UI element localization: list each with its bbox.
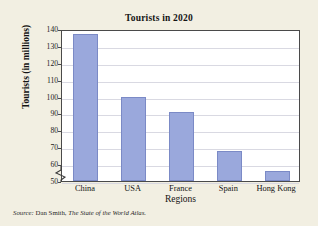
x-axis-tick-label-spain: Spain: [204, 184, 252, 193]
y-axis-tick-label: 90: [28, 110, 58, 118]
x-axis-tick-label-hong-kong: Hong Kong: [252, 184, 300, 193]
source-author: Dan Smith,: [36, 209, 67, 216]
y-axis-tick-label: 110: [28, 77, 58, 85]
source-work-title: The State of the World Atlas.: [68, 209, 146, 216]
bar-china[interactable]: [73, 34, 98, 181]
y-axis-tick-label: 130: [28, 43, 58, 51]
bar-spain[interactable]: [217, 151, 242, 181]
chart-title: Tourists in 2020: [0, 13, 318, 23]
bar-hong-kong[interactable]: [265, 171, 290, 181]
y-axis-tick-label: 70: [28, 144, 58, 152]
plot-area: [61, 30, 300, 182]
y-axis-tick-label: 140: [28, 26, 58, 34]
y-axis-tick-label: 80: [28, 127, 58, 135]
y-axis-tick-label: 120: [28, 60, 58, 68]
x-axis-tick-label-france: France: [157, 184, 205, 193]
bar-france[interactable]: [169, 112, 194, 181]
figure-page: Tourists in 2020 Tourists (in millions) …: [0, 0, 318, 226]
x-axis-tick-label-china: China: [61, 184, 109, 193]
bar-usa[interactable]: [121, 97, 146, 181]
x-axis-title: Regions: [61, 194, 300, 204]
axis-break-icon: [54, 166, 68, 182]
y-axis-tick-label: 100: [28, 94, 58, 102]
source-note: Source: Dan Smith, The State of the Worl…: [13, 209, 146, 216]
source-prefix: Source:: [13, 209, 34, 216]
y-axis-tick-mark: [58, 182, 61, 183]
x-axis-tick-label-usa: USA: [109, 184, 157, 193]
